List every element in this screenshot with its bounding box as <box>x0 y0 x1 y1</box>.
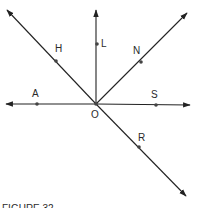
ray-OS <box>96 104 190 105</box>
origin-label-O: O <box>91 109 99 120</box>
rays <box>6 10 190 196</box>
point-S <box>154 103 158 107</box>
point-R <box>137 145 141 149</box>
point-label-R: R <box>138 132 145 143</box>
figure-caption: FIGURE 32 <box>2 203 54 208</box>
point-O <box>94 102 98 106</box>
ray-OH <box>7 10 96 104</box>
point-label-S: S <box>151 89 158 100</box>
ray-OR <box>96 104 186 196</box>
point-label-N: N <box>133 45 140 56</box>
point-N <box>139 60 143 64</box>
point-label-A: A <box>32 88 39 99</box>
point-H <box>54 59 58 63</box>
points: HLNASR <box>32 38 158 149</box>
ray-ON <box>96 13 187 104</box>
point-label-H: H <box>55 43 62 54</box>
point-label-L: L <box>101 38 107 49</box>
point-A <box>35 102 39 106</box>
ray-diagram: HLNASR O FIGURE 32 <box>0 0 197 208</box>
point-L <box>95 42 99 46</box>
